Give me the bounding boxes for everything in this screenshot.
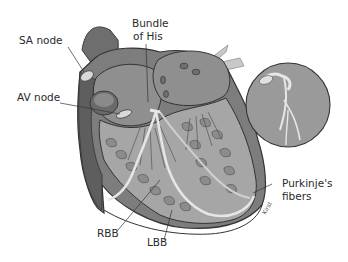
label-sa-node: SA node (19, 34, 63, 46)
label-purkinje-line1: Purkinje's (282, 177, 333, 189)
label-bundle-of-his-line1: Bundle (132, 17, 169, 29)
label-purkinje-line2: fibers (282, 190, 312, 202)
leader-sa-node (68, 47, 84, 72)
label-av-node: AV node (17, 91, 60, 103)
label-bundle-of-his-line2: of His (133, 30, 163, 42)
label-rbb: RBB (97, 227, 119, 239)
purkinje-magnified-inset (246, 63, 330, 147)
heart-conduction-diagram: Kirst SA node Bundle of His AV node RBB … (0, 0, 348, 262)
label-lbb: LBB (147, 236, 167, 248)
